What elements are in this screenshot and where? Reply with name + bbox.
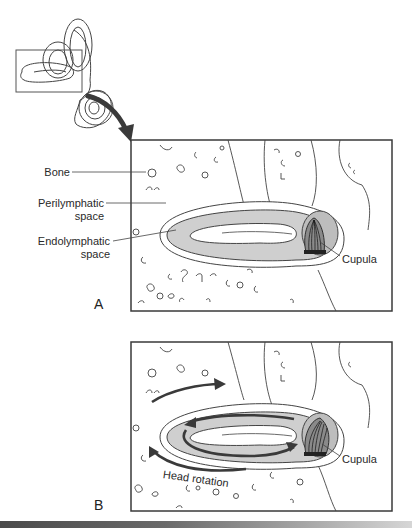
panel-letter-b: B [94, 497, 103, 513]
panel-a-drawing [72, 140, 392, 311]
label-endolymphatic-line1: Endolymphatic [10, 235, 110, 248]
label-perilymphatic-line2: space [10, 210, 104, 223]
inset-box [16, 50, 82, 92]
panel-letter-a: A [94, 296, 103, 312]
label-endolymphatic-line2: space [10, 248, 110, 261]
inner-ear-labyrinth [21, 19, 113, 128]
panel-b-drawing [131, 342, 392, 511]
label-perilymphatic-line1: Perilymphatic [10, 197, 104, 210]
label-cupula-a: Cupula [342, 253, 377, 266]
label-cupula-b: Cupula [342, 453, 377, 466]
label-bone: Bone [10, 166, 70, 179]
bottom-caption-bar [0, 521, 412, 528]
